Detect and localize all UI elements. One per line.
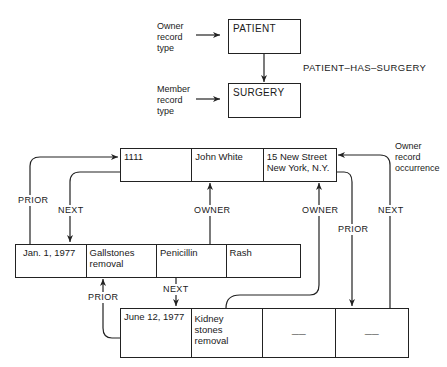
surgery-procedure-cell: Kidney stones removal bbox=[192, 309, 264, 357]
label-line: record bbox=[157, 95, 190, 106]
owner-record-occurrence-label: Owner record occurrence bbox=[395, 141, 440, 174]
patient-type-name: PATIENT bbox=[233, 23, 276, 34]
owner-link-label-right: OWNER bbox=[301, 205, 340, 216]
label-line: type bbox=[157, 43, 184, 54]
prior-link-label-left: PRIOR bbox=[17, 195, 50, 206]
surgery-record-type-box: SURGERY bbox=[228, 83, 301, 118]
member-record-type-label: Member record type bbox=[157, 84, 190, 117]
surgery-drug-cell: —— bbox=[263, 309, 336, 357]
label-line: record bbox=[157, 32, 184, 43]
patient-record-type-box: PATIENT bbox=[228, 19, 301, 54]
set-name-label: PATIENT–HAS–SURGERY bbox=[303, 62, 426, 73]
next-link-label-left: NEXT bbox=[57, 205, 85, 216]
label-line: Member bbox=[157, 84, 190, 95]
label-line: record bbox=[395, 152, 440, 163]
surgery-side-effect-cell: —— bbox=[336, 309, 408, 357]
patient-address-cell: 15 New Street New York, N.Y. bbox=[264, 149, 336, 181]
member-record-1: Jan. 1, 1977 Gallstones removal Penicill… bbox=[15, 244, 301, 278]
next-link-label-right: NEXT bbox=[377, 205, 405, 216]
owner-record-type-label: Owner record type bbox=[157, 21, 184, 54]
surgery-side-effect-cell: Rash bbox=[227, 245, 300, 277]
surgery-type-name: SURGERY bbox=[233, 87, 284, 98]
label-line: Owner bbox=[395, 141, 440, 152]
owner-record: 1111 John White 15 New Street New York, … bbox=[120, 148, 337, 182]
next-link-label-between: NEXT bbox=[162, 284, 190, 295]
patient-name-cell: John White bbox=[192, 149, 263, 181]
prior-link-label-right: PRIOR bbox=[337, 224, 370, 235]
patient-id-cell: 1111 bbox=[121, 149, 192, 181]
member-record-2: June 12, 1977 Kidney stones removal —— —… bbox=[120, 308, 409, 358]
surgery-date-cell: Jan. 1, 1977 bbox=[16, 245, 87, 277]
label-line: occurrence bbox=[395, 163, 440, 174]
surgery-date-cell: June 12, 1977 bbox=[121, 309, 192, 357]
owner-link-label-mid: OWNER bbox=[193, 205, 232, 216]
prior-link-label-between: PRIOR bbox=[87, 292, 120, 303]
label-line: Owner bbox=[157, 21, 184, 32]
surgery-drug-cell: Penicillin bbox=[157, 245, 227, 277]
label-line: type bbox=[157, 106, 190, 117]
surgery-procedure-cell: Gallstones removal bbox=[87, 245, 158, 277]
